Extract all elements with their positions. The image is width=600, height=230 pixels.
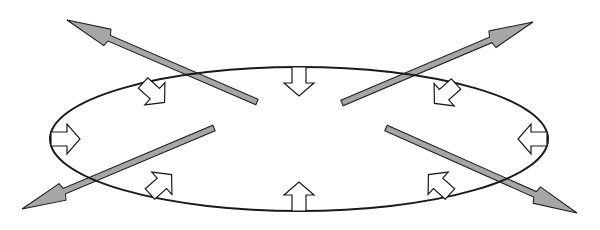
inward-arrow-right-icon xyxy=(518,124,547,154)
inward-arrow-bottom-icon xyxy=(284,182,314,211)
inward-arrows-group xyxy=(51,67,547,211)
inward-arrow-top-icon xyxy=(284,67,314,96)
outward-arrow-lower-right-icon xyxy=(382,120,580,221)
pressure-diagram xyxy=(0,0,600,230)
inward-arrow-left-icon xyxy=(51,124,80,154)
inward-arrow-upper-right-icon xyxy=(424,73,466,115)
